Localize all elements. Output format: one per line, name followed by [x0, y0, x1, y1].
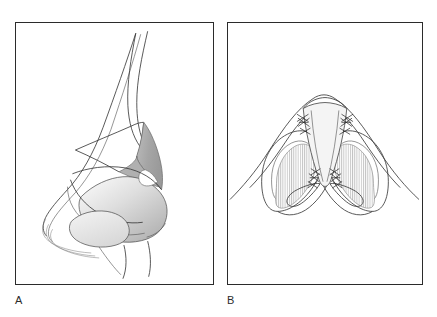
medial-crus-footplate	[69, 211, 129, 247]
panel-a-illustration	[16, 23, 213, 284]
panel-b-illustration	[228, 23, 422, 284]
panel-b-basal-view	[227, 22, 423, 285]
panel-b-caption: B	[227, 295, 235, 306]
panel-a-caption: A	[15, 295, 23, 306]
figure-root: A	[0, 0, 437, 317]
panel-a-lateral-view	[15, 22, 214, 285]
